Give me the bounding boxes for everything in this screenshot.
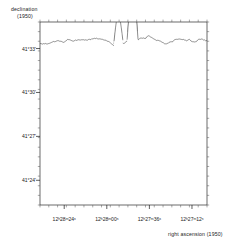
right-ascension-tick-label: 12ʰ28ᵐ24ˢ	[49, 216, 79, 222]
right-ascension-tick-label: 12ʰ27ᵐ12ˢ	[177, 216, 207, 222]
declination-axis-title-line1: declination	[11, 6, 37, 12]
declination-tick-label: 41°27'	[8, 133, 36, 139]
surface-plot-canvas	[0, 0, 246, 247]
declination-axis-title-line2: (1950)	[11, 13, 37, 20]
radio-map-figure: declination (1950) right ascension (1950…	[0, 0, 246, 247]
declination-axis-title: declination (1950)	[11, 6, 37, 19]
declination-tick-label: 41°33'	[8, 46, 36, 52]
declination-tick-label: 41°24'	[8, 177, 36, 183]
mesh-scanline-fill	[40, 36, 207, 68]
right-ascension-axis-title: right ascension (1950)	[168, 231, 223, 238]
right-ascension-tick-label: 12ʰ27ᵐ36ˢ	[134, 216, 164, 222]
right-ascension-tick-label: 12ʰ28ᵐ00ˢ	[92, 216, 122, 222]
declination-tick-label: 41°30'	[8, 89, 36, 95]
